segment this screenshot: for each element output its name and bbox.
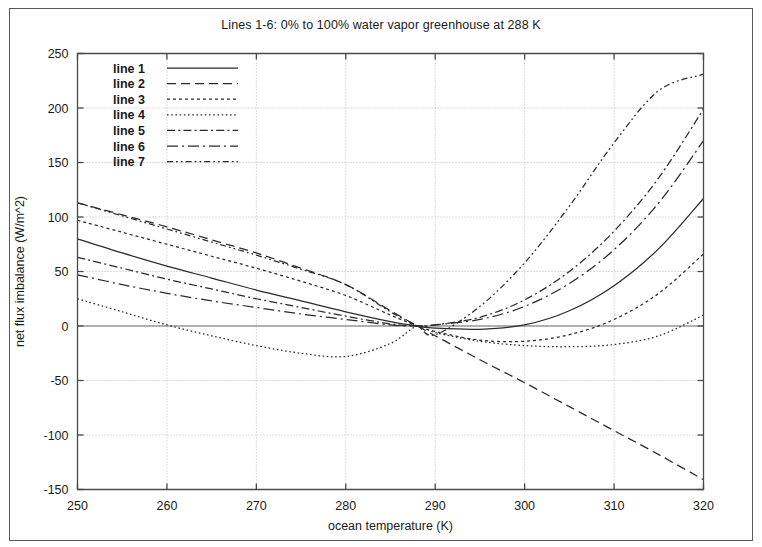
y-tick-label: 200: [48, 102, 69, 116]
x-tick-label: 290: [425, 499, 446, 513]
y-tick-label: -50: [50, 374, 68, 388]
legend-label-7: line 7: [113, 155, 145, 169]
series-line-5: [78, 109, 704, 326]
x-axis-tick-labels: 250260270280290300310320: [67, 499, 714, 513]
y-tick-label: 100: [48, 211, 69, 225]
legend-label-5: line 5: [113, 124, 145, 138]
x-tick-label: 280: [335, 499, 356, 513]
y-tick-label: 150: [48, 156, 69, 170]
x-tick-label: 320: [693, 499, 714, 513]
series-line-2: [78, 203, 704, 480]
legend-label-3: line 3: [113, 93, 145, 107]
series-line-6: [78, 141, 704, 326]
y-tick-label: -100: [43, 429, 68, 443]
legend-label-2: line 2: [113, 77, 145, 91]
gridlines: [78, 54, 704, 490]
y-tick-label: 50: [55, 265, 69, 279]
x-tick-label: 310: [604, 499, 625, 513]
x-axis-title: ocean temperature (K): [328, 519, 453, 533]
series-line-1: [78, 198, 704, 329]
data-series-group: [78, 74, 704, 479]
x-tick-label: 250: [67, 499, 88, 513]
series-line-3: [78, 220, 704, 341]
chart-figure: Lines 1-6: 0% to 100% water vapor greenh…: [0, 0, 762, 547]
series-line-7: [78, 74, 704, 335]
y-tick-label: 250: [48, 47, 69, 61]
legend-label-6: line 6: [113, 140, 145, 154]
legend-label-1: line 1: [113, 62, 145, 76]
chart-page: Lines 1-6: 0% to 100% water vapor greenh…: [0, 0, 762, 547]
x-tick-label: 270: [246, 499, 267, 513]
x-tick-label: 260: [156, 499, 177, 513]
y-tick-label: -150: [43, 483, 68, 497]
y-axis-title: net flux imbalance (W/m^2): [13, 196, 27, 347]
y-tick-label: 0: [62, 320, 69, 334]
x-tick-label: 300: [514, 499, 535, 513]
y-axis-tick-labels: -150-100-50050100150200250: [43, 47, 68, 497]
legend: line 1line 2line 3line 4line 5line 6line…: [113, 62, 238, 170]
series-line-4: [78, 299, 704, 357]
legend-label-4: line 4: [113, 108, 145, 122]
plot-canvas: 250260270280290300310320 -150-100-500501…: [0, 0, 762, 547]
